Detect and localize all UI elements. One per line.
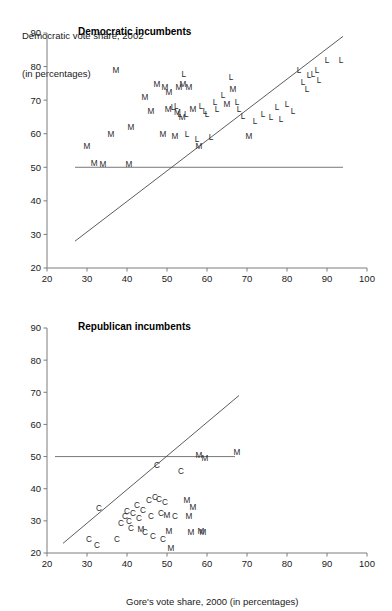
data-point-label: M <box>168 544 175 553</box>
data-point-label: L <box>182 70 187 79</box>
data-point-label: C <box>162 498 168 507</box>
data-point-label: L <box>261 110 266 119</box>
data-point-label: L <box>315 66 320 75</box>
data-point-label: L <box>184 110 189 119</box>
data-point-label: L <box>185 130 190 139</box>
data-point-label: L <box>317 76 322 85</box>
y-axis-tick-label: 30 <box>30 229 41 240</box>
data-point-label: C <box>136 514 142 523</box>
data-point-label: L <box>215 105 220 114</box>
x-axis-tick-label: 20 <box>42 273 53 284</box>
data-point-label: M <box>126 160 133 169</box>
data-point-label: L <box>269 113 274 122</box>
data-point-label: M <box>188 528 195 537</box>
data-point-label: M <box>154 80 161 89</box>
y-axis-tick-label: 50 <box>30 162 41 173</box>
y-axis-tick-label: 70 <box>30 387 41 398</box>
data-point-label: M <box>100 160 107 169</box>
x-axis-tick-label: 50 <box>162 273 173 284</box>
data-point-label: M <box>108 130 115 139</box>
x-axis-tick-label: 100 <box>359 558 375 569</box>
x-axis-tick-label: 50 <box>162 558 173 569</box>
x-axis-tick-label: 40 <box>122 558 133 569</box>
x-axis-tick-label: 90 <box>322 273 333 284</box>
data-point-label: L <box>305 85 310 94</box>
data-point-label: M <box>230 85 237 94</box>
data-point-label: L <box>291 107 296 116</box>
data-point-label: C <box>140 506 146 515</box>
data-point-label: L <box>285 100 290 109</box>
data-point-label: M <box>91 159 98 168</box>
data-point-label: L <box>297 66 302 75</box>
data-point-label: L <box>325 56 330 65</box>
data-point-label: L <box>209 133 214 142</box>
data-point-label: M <box>186 512 193 521</box>
panel-republican-incumbents: Republican incumbents 203040506070809020… <box>0 295 392 589</box>
data-point-label: M <box>160 130 167 139</box>
scatter-plot-republican: 20304050607080902030405060708090100CCCCC… <box>0 295 392 590</box>
data-point-label: C <box>154 461 160 470</box>
data-point-label: C <box>142 528 148 537</box>
data-point-label: M <box>148 107 155 116</box>
x-axis-tick-label: 70 <box>242 273 253 284</box>
x-axis-tick-label: 20 <box>42 558 53 569</box>
data-point-label: M <box>84 142 91 151</box>
data-point-group: MMMMMMMMMMMMMMLLMMLMLMLMLMMLMLLLLLLLMLML… <box>84 56 344 169</box>
y-axis-tick-label: 40 <box>30 195 41 206</box>
panel-democratic-incumbents: Democratic incumbents 203040506070809020… <box>0 0 392 295</box>
data-point-label: C <box>96 504 102 513</box>
data-point-label: C <box>172 512 178 521</box>
data-point-label: M <box>166 527 173 536</box>
x-axis-tick-label: 80 <box>282 558 293 569</box>
x-axis-tick-label: 60 <box>202 273 213 284</box>
data-point-label: L <box>241 112 246 121</box>
data-point-label: M <box>196 142 203 151</box>
data-point-label: M <box>128 123 135 132</box>
y-axis-tick-label: 90 <box>30 27 41 38</box>
data-point-label: L <box>275 103 280 112</box>
data-point-label: C <box>178 467 184 476</box>
y-axis-tick-label: 90 <box>30 322 41 333</box>
y-axis-tick-label: 60 <box>30 128 41 139</box>
data-point-label: M <box>112 66 119 75</box>
data-point-label: C <box>94 541 100 550</box>
data-point-label: M <box>200 528 207 537</box>
x-axis-tick-label: 30 <box>82 273 93 284</box>
y-axis-tick-label: 50 <box>30 451 41 462</box>
y-axis-tick-label: 80 <box>30 61 41 72</box>
x-axis-title: Gore's vote share, 2000 (in percentages) <box>126 571 298 611</box>
data-point-label: L <box>279 115 284 124</box>
x-axis-tick-label: 80 <box>282 273 293 284</box>
data-point-label: M <box>190 503 197 512</box>
data-point-label: C <box>160 535 166 544</box>
y-axis-tick-label: 30 <box>30 515 41 526</box>
data-point-label: M <box>224 100 231 109</box>
data-point-label: M <box>172 132 179 141</box>
data-point-label: M <box>234 448 241 457</box>
x-axis-tick-label: 100 <box>359 273 375 284</box>
data-point-label: L <box>229 73 234 82</box>
x-axis-tick-label: 30 <box>82 558 93 569</box>
x-axis-tick-label: 60 <box>202 558 213 569</box>
data-point-label: C <box>148 512 154 521</box>
data-point-group: CCCCCCCCCCCCMCCCCCCCCCCCMMMCCMMMMMMMMM <box>86 448 241 553</box>
y-axis-tick-label: 20 <box>30 547 41 558</box>
y-axis-tick-label: 40 <box>30 483 41 494</box>
x-axis-tick-label: 70 <box>242 558 253 569</box>
data-point-label: C <box>114 535 120 544</box>
scatter-plot-democratic: 20304050607080902030405060708090100MMMMM… <box>0 0 392 295</box>
data-point-label: M <box>142 93 149 102</box>
data-point-label: L <box>205 110 210 119</box>
y-axis-tick-label: 60 <box>30 419 41 430</box>
x-axis-title-text: Gore's vote share, 2000 (in percentages) <box>126 596 298 609</box>
data-point-label: M <box>246 132 253 141</box>
data-point-label: C <box>128 524 134 533</box>
y-axis-tick-label: 20 <box>30 262 41 273</box>
data-point-label: M <box>190 105 197 114</box>
data-point-label: M <box>202 454 209 463</box>
data-point-label: M <box>164 511 171 520</box>
y-axis-tick-label: 70 <box>30 95 41 106</box>
x-axis-tick-label: 90 <box>322 558 333 569</box>
data-point-label: L <box>253 117 258 126</box>
